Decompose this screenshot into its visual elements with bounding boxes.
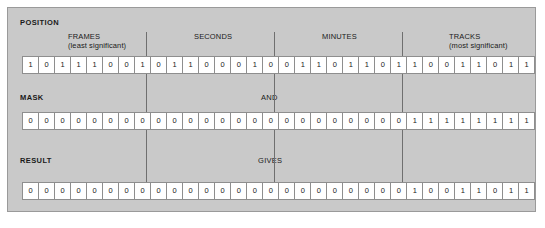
bit-cell: 0 [374,56,390,74]
result-bit-row: 00000000000000000000000010011011 [22,182,535,200]
and-operator-label: AND [261,93,278,102]
position-section-title: POSITION [20,18,59,27]
bit-cell: 0 [262,112,278,130]
bit-cell: 0 [342,112,358,130]
bitfield-diagram: POSITION FRAMES (least significant) SECO… [0,0,545,228]
bit-cell: 0 [102,182,118,200]
bit-cell: 1 [406,182,422,200]
bit-cell: 1 [454,56,470,74]
mask-section-title: MASK [20,93,44,102]
bit-cell: 0 [118,182,134,200]
bit-cell: 0 [358,112,374,130]
bit-cell: 1 [70,56,86,74]
bit-cell: 1 [406,112,422,130]
bit-cell: 1 [310,56,326,74]
bit-cell: 1 [518,56,534,74]
bit-cell: 0 [326,112,342,130]
bit-cell: 1 [54,56,70,74]
bit-cell: 0 [390,112,406,130]
bit-cell: 0 [150,56,166,74]
bit-cell: 1 [342,56,358,74]
bit-cell: 1 [502,182,518,200]
group-label-minutes: MINUTES [322,32,357,41]
bit-cell: 0 [278,112,294,130]
bit-cell: 0 [214,56,230,74]
bit-cell: 0 [374,182,390,200]
bit-cell: 0 [342,182,358,200]
bit-cell: 1 [438,112,454,130]
bit-cell: 1 [182,56,198,74]
bit-cell: 0 [390,182,406,200]
bit-cell: 0 [278,182,294,200]
bit-cell: 0 [278,56,294,74]
bit-cell: 1 [486,112,502,130]
bit-cell: 0 [86,182,102,200]
bit-cell: 0 [150,182,166,200]
bit-cell: 0 [86,112,102,130]
bit-cell: 1 [470,112,486,130]
bit-cell: 0 [198,182,214,200]
bit-cell: 0 [374,112,390,130]
bit-cell: 0 [294,112,310,130]
bit-cell: 0 [438,182,454,200]
bit-cell: 1 [294,56,310,74]
bit-cell: 1 [470,56,486,74]
bit-cell: 0 [150,112,166,130]
bit-cell: 0 [22,182,38,200]
group-label-seconds: SECONDS [194,32,232,41]
group-name-frames: FRAMES [68,32,100,41]
bit-cell: 0 [118,56,134,74]
bit-cell: 1 [406,56,422,74]
bit-cell: 0 [54,182,70,200]
bit-cell: 0 [166,182,182,200]
bit-cell: 1 [134,56,150,74]
bit-cell: 0 [70,112,86,130]
group-name-minutes: MINUTES [322,32,357,41]
result-section-title: RESULT [20,156,52,165]
bit-cell: 1 [390,56,406,74]
bit-cell: 0 [102,112,118,130]
bit-cell: 1 [502,112,518,130]
bit-cell: 0 [246,112,262,130]
group-name-seconds: SECONDS [194,32,232,41]
position-bit-row: 10111001011000100110110110011011 [22,56,535,74]
bit-cell: 0 [38,182,54,200]
bit-cell: 0 [246,182,262,200]
bit-cell: 0 [310,182,326,200]
bit-cell: 0 [326,56,342,74]
bit-cell: 1 [166,56,182,74]
bit-cell: 0 [262,56,278,74]
bit-cell: 1 [422,112,438,130]
bit-cell: 0 [182,112,198,130]
bit-cell: 0 [438,56,454,74]
group-sub-tracks: (most significant) [449,41,507,50]
bit-cell: 0 [198,112,214,130]
bit-cell: 1 [358,56,374,74]
bit-cell: 0 [230,56,246,74]
bit-cell: 0 [310,112,326,130]
bit-cell: 1 [518,112,534,130]
bit-cell: 1 [470,182,486,200]
bit-cell: 0 [166,112,182,130]
group-label-frames: FRAMES (least significant) [68,32,126,50]
mask-bit-row: 00000000000000000000000011111111 [22,112,535,130]
bit-cell: 0 [134,182,150,200]
bit-cell: 0 [54,112,70,130]
bit-cell: 0 [358,182,374,200]
bit-cell: 0 [486,56,502,74]
bit-cell: 1 [22,56,38,74]
bit-cell: 0 [102,56,118,74]
group-label-tracks: TRACKS (most significant) [449,32,507,50]
gives-operator-label: GIVES [258,156,282,165]
bit-cell: 1 [454,112,470,130]
bit-cell: 0 [294,182,310,200]
bit-cell: 1 [86,56,102,74]
bit-cell: 0 [182,182,198,200]
diagram-panel: POSITION FRAMES (least significant) SECO… [7,7,536,212]
bit-cell: 1 [246,56,262,74]
bit-cell: 0 [38,56,54,74]
bit-cell: 1 [502,56,518,74]
bit-cell: 0 [486,182,502,200]
bit-cell: 1 [518,182,534,200]
bit-cell: 0 [134,112,150,130]
